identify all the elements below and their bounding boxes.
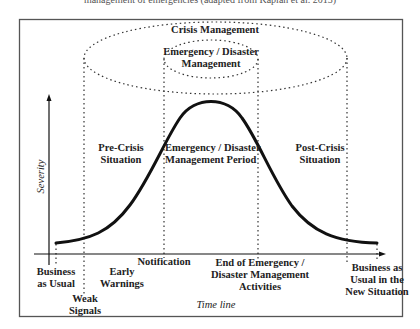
end-of-emergency-label: End of Emergency / Disaster Management A… [210, 257, 310, 293]
business-as-usual-label: Business as Usual [28, 266, 84, 290]
pre-crisis-line2: Situation [91, 154, 151, 166]
weak-signals-line2: Signals [60, 305, 110, 317]
early-warnings-line2: Warnings [94, 278, 150, 290]
new-situation-line1: Business as [340, 262, 414, 274]
emergency-management-label-line2: Management [161, 58, 261, 70]
weak-signals-label: Weak Signals [60, 293, 110, 317]
weak-signals-line1: Weak [60, 293, 110, 305]
emergency-management-period-label: Emergency / Disaster Management Period [165, 142, 260, 166]
business-as-usual-line1: Business [28, 266, 84, 278]
emergency-management-label: Emergency / Disaster Management [161, 46, 261, 70]
end-of-emergency-line1: End of Emergency / [210, 257, 310, 269]
business-as-usual-line2: as Usual [28, 278, 84, 290]
emergency-management-label-line1: Emergency / Disaster [161, 46, 261, 58]
end-of-emergency-line3: Activities [210, 281, 310, 293]
early-warnings-label: Early Warnings [94, 266, 150, 290]
post-crisis-situation-label: Post-Crisis Situation [290, 142, 350, 166]
post-crisis-line1: Post-Crisis [290, 142, 350, 154]
pre-crisis-line1: Pre-Crisis [91, 142, 151, 154]
notification-label: Notification [134, 256, 194, 268]
y-axis-label: Severity [35, 157, 46, 197]
pre-crisis-situation-label: Pre-Crisis Situation [91, 142, 151, 166]
crisis-management-label: Crisis Management [165, 24, 265, 36]
emergency-period-line1: Emergency / Disaster [165, 142, 260, 154]
end-of-emergency-line2: Disaster Management [210, 269, 310, 281]
severity-curve [56, 102, 377, 244]
new-situation-line3: New Situation [340, 286, 414, 298]
emergency-period-line2: Management Period [165, 154, 260, 166]
business-as-usual-new-situation-label: Business as Usual in the New Situation [340, 262, 414, 298]
x-axis-label: Time line [186, 299, 246, 310]
x-axis-arrowhead-icon [379, 252, 386, 257]
y-axis-arrowhead-icon [47, 94, 52, 101]
new-situation-line2: Usual in the [340, 274, 414, 286]
post-crisis-line2: Situation [290, 154, 350, 166]
